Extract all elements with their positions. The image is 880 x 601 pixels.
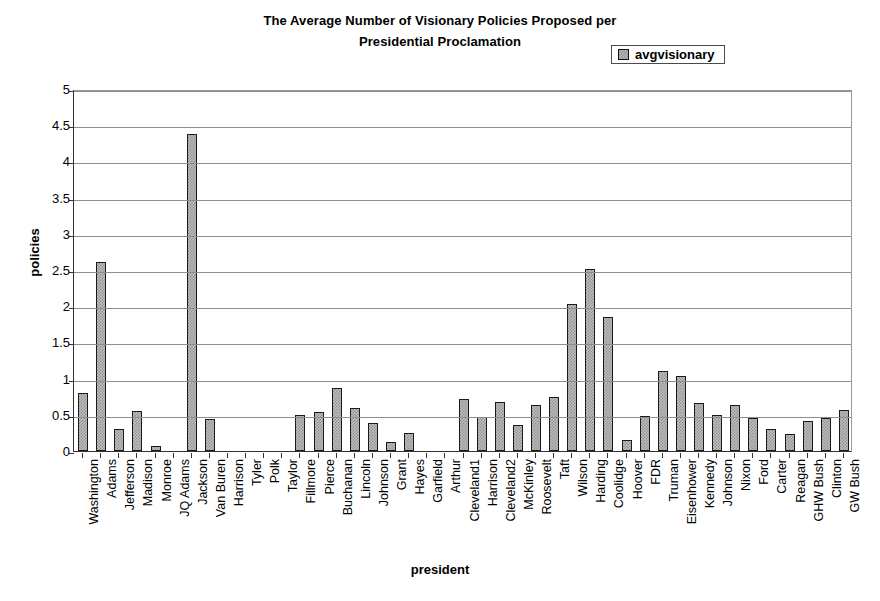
x-tick-label: Jefferson [123,459,137,510]
y-axis-title: policies [27,203,42,303]
x-tick-label: Kennedy [703,459,717,508]
bar [785,434,795,451]
bar [404,433,414,451]
x-tick-label: Taylor [286,459,300,492]
x-tick-mark [789,453,790,458]
x-tick-label: Johnson [377,459,391,506]
x-tick-mark [463,453,464,458]
bar [295,415,305,451]
x-tick-mark [155,453,156,458]
bar [459,399,469,451]
x-tick-mark [662,453,663,458]
x-tick-mark [209,453,210,458]
x-tick-mark [173,453,174,458]
x-tick-mark [644,453,645,458]
bar [585,269,595,451]
y-tick-label: 0.5 [10,408,70,423]
bar [78,393,88,451]
y-tick-label: 3 [10,227,70,242]
gridline [74,127,851,128]
chart-title: The Average Number of Visionary Policies… [0,10,880,52]
x-tick-label: Adams [105,459,119,498]
chart-title-line-2: Presidential Proclamation [0,31,880,52]
bar [730,405,740,451]
x-tick-label: Nixon [739,459,753,491]
x-tick-mark [263,453,264,458]
bar [622,440,632,451]
bar [114,429,124,451]
gridline [74,381,851,382]
x-tick-mark [607,453,608,458]
bar [549,397,559,451]
y-tick-label: 4.5 [10,118,70,133]
x-tick-label: Harrison [486,459,500,506]
x-tick-mark [680,453,681,458]
bar [495,402,505,451]
x-tick-mark [571,453,572,458]
bar [477,417,487,451]
bar [531,405,541,451]
x-tick-mark [390,453,391,458]
x-tick-mark [843,453,844,458]
gridline [74,236,851,237]
plot-area: 54.543.532.521.510.50 [73,90,852,452]
y-tick-label: 2.5 [10,263,70,278]
x-tick-mark [100,453,101,458]
gridline [74,417,851,418]
x-axis-tick-labels: WashingtonAdamsJeffersonMadisonMonroeJQ … [73,459,852,559]
x-tick-mark [481,453,482,458]
x-axis-title: president [0,562,880,577]
y-tick-label: 1 [10,372,70,387]
x-tick-label: Eisenhower [685,459,699,524]
bar [567,304,577,451]
x-tick-mark [807,453,808,458]
y-tick-label: 5 [10,82,70,97]
x-tick-mark [299,453,300,458]
x-tick-mark [444,453,445,458]
bar [766,429,776,451]
x-tick-label: Clinton [830,459,844,498]
x-tick-label: Cleveland1 [468,459,482,522]
x-tick-label: JQ Adams [178,459,192,517]
x-tick-mark [136,453,137,458]
x-tick-label: Washington [87,459,101,525]
bar [748,418,758,451]
x-tick-mark [408,453,409,458]
x-tick-label: Jackson [196,459,210,505]
bar [821,418,831,451]
bar [803,421,813,451]
x-tick-mark [191,453,192,458]
x-tick-mark [626,453,627,458]
x-tick-label: Arthur [449,459,463,493]
x-tick-label: Reagan [794,459,808,503]
x-tick-label: Ford [757,459,771,485]
y-tick-label: 4 [10,154,70,169]
x-tick-mark [734,453,735,458]
x-tick-label: Carter [775,459,789,494]
bar [151,446,161,451]
x-tick-label: GHW Bush [812,459,826,522]
bar [332,388,342,451]
x-tick-label: Hayes [413,459,427,494]
bar [386,442,396,451]
x-tick-mark [770,453,771,458]
x-tick-mark [118,453,119,458]
x-tick-label: Cleveland2 [504,459,518,522]
x-tick-mark [318,453,319,458]
gridline [74,272,851,273]
bar [694,403,704,451]
x-tick-mark [716,453,717,458]
y-tick-label: 3.5 [10,191,70,206]
x-tick-mark [227,453,228,458]
x-tick-mark [589,453,590,458]
chart-title-line-1: The Average Number of Visionary Policies… [0,10,880,31]
x-tick-label: Taft [558,459,572,479]
chart-legend: avgvisionary [611,45,725,64]
bar [603,317,613,451]
x-tick-label: Monroe [160,459,174,501]
y-tick-label: 1.5 [10,335,70,350]
x-tick-label: Hoover [631,459,645,499]
x-tick-mark [82,453,83,458]
bars-layer [74,91,851,451]
bar [96,262,106,451]
